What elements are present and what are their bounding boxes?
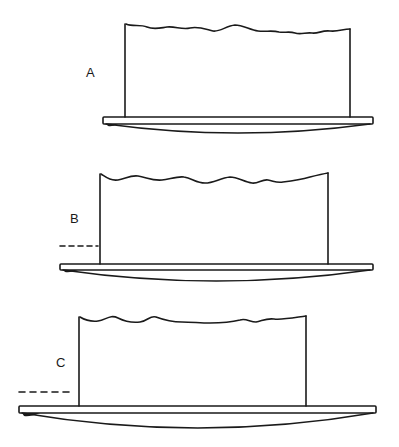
panel-b — [60, 173, 373, 281]
panel-c-lens-bulge — [22, 413, 373, 428]
panel-b-plate — [60, 264, 373, 270]
panel-c-plate — [19, 406, 376, 413]
panel-c — [19, 316, 376, 428]
panel-a-label: A — [86, 66, 95, 79]
panel-a-wavy-top — [126, 24, 350, 34]
diagram-canvas — [0, 0, 399, 447]
panel-b-lens-bulge — [63, 270, 370, 281]
panel-c-label: C — [56, 356, 65, 369]
panel-a-lens-bulge — [106, 124, 370, 133]
panel-a — [103, 24, 373, 133]
panel-c-wavy-top — [80, 316, 306, 323]
panel-b-wavy-top — [101, 173, 328, 183]
panel-a-plate — [103, 117, 373, 124]
panel-b-label: B — [70, 212, 79, 225]
